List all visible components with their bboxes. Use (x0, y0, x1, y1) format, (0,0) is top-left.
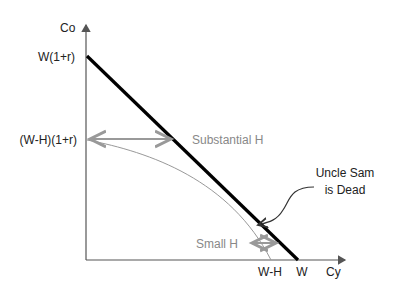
callout-line2: is Dead (325, 183, 366, 197)
small-h-label: Small H (196, 237, 238, 251)
y-tick-top: W(1+r) (38, 50, 75, 64)
frontier-curve (87, 140, 271, 260)
x-tick-wh: W-H (258, 265, 282, 279)
y-tick-middle: (W-H)(1+r) (20, 133, 77, 147)
callout-arrow (258, 187, 314, 225)
callout-line1: Uncle Sam (316, 166, 375, 180)
budget-line (87, 56, 298, 260)
diagram-canvas: Co Cy W(1+r) (W-H)(1+r) W-H W Substantia… (0, 0, 398, 294)
y-axis-label: Co (60, 21, 76, 35)
x-axis-label: Cy (326, 265, 341, 279)
x-tick-w: W (296, 265, 308, 279)
substantial-h-label: Substantial H (192, 133, 263, 147)
